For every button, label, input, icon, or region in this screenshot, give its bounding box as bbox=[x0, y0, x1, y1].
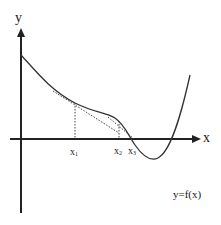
x-axis-label: x bbox=[203, 131, 210, 145]
y-axis-label: y bbox=[15, 11, 22, 25]
x3-label-sub: 3 bbox=[133, 150, 136, 156]
function-curve bbox=[21, 55, 190, 159]
x2-label: x2 bbox=[114, 146, 122, 156]
function-label: y=f(x) bbox=[173, 189, 201, 200]
tangent-line-1 bbox=[53, 91, 119, 133]
x-axis-arrow-icon bbox=[192, 135, 201, 143]
x1-label: x1 bbox=[70, 147, 78, 157]
x3-label: x3 bbox=[128, 146, 136, 156]
x2-label-sub: 2 bbox=[119, 150, 122, 156]
x1-label-sub: 1 bbox=[75, 151, 78, 157]
y-axis-arrow-icon bbox=[17, 28, 25, 37]
